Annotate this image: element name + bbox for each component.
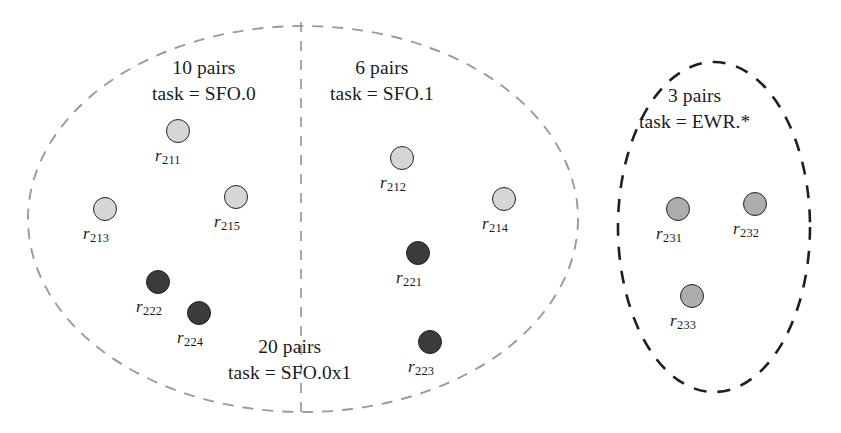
node-r224[interactable] bbox=[187, 301, 211, 325]
node-label-r221: r221 bbox=[396, 268, 422, 288]
group-caption-line: 20 pairs bbox=[228, 334, 351, 360]
node-r231[interactable] bbox=[666, 197, 690, 221]
node-label-prefix: r bbox=[214, 212, 221, 231]
node-label-prefix: r bbox=[670, 311, 677, 330]
node-label-prefix: r bbox=[83, 224, 90, 243]
group-caption-line: 6 pairs bbox=[330, 55, 434, 81]
node-label-r212: r212 bbox=[380, 173, 406, 193]
node-label-subscript: 221 bbox=[403, 275, 422, 289]
node-r232[interactable] bbox=[743, 192, 767, 216]
group-caption-line: 10 pairs bbox=[152, 55, 256, 81]
node-label-r222: r222 bbox=[136, 297, 162, 317]
node-label-subscript: 213 bbox=[90, 231, 109, 245]
node-label-subscript: 215 bbox=[221, 219, 240, 233]
group-caption-sfo-0: 10 pairstask = SFO.0 bbox=[152, 55, 256, 106]
node-label-prefix: r bbox=[396, 268, 403, 287]
node-label-r211: r211 bbox=[155, 146, 180, 166]
node-r214[interactable] bbox=[492, 187, 516, 211]
node-r212[interactable] bbox=[390, 146, 414, 170]
node-label-subscript: 232 bbox=[740, 226, 759, 240]
node-label-subscript: 233 bbox=[677, 318, 696, 332]
node-label-prefix: r bbox=[155, 146, 162, 165]
node-label-subscript: 212 bbox=[387, 180, 406, 194]
node-r223[interactable] bbox=[418, 330, 442, 354]
node-r222[interactable] bbox=[146, 270, 170, 294]
group-caption-sfo-0x1: 20 pairstask = SFO.0x1 bbox=[228, 334, 351, 385]
group-caption-line: 3 pairs bbox=[639, 83, 750, 109]
node-label-r232: r232 bbox=[733, 219, 759, 239]
node-r215[interactable] bbox=[224, 185, 248, 209]
node-label-r224: r224 bbox=[177, 328, 203, 348]
node-label-prefix: r bbox=[177, 328, 184, 347]
group-caption-line: task = SFO.0x1 bbox=[228, 360, 351, 386]
node-label-r214: r214 bbox=[482, 214, 508, 234]
node-label-prefix: r bbox=[733, 219, 740, 238]
node-label-subscript: 231 bbox=[663, 231, 682, 245]
node-label-subscript: 211 bbox=[162, 153, 181, 167]
node-label-r233: r233 bbox=[670, 311, 696, 331]
node-label-subscript: 222 bbox=[143, 304, 162, 318]
group-caption-sfo-1: 6 pairstask = SFO.1 bbox=[330, 55, 434, 106]
node-label-subscript: 223 bbox=[415, 364, 434, 378]
node-r233[interactable] bbox=[680, 284, 704, 308]
group-caption-line: task = SFO.0 bbox=[152, 81, 256, 107]
node-label-subscript: 224 bbox=[184, 335, 203, 349]
node-label-prefix: r bbox=[656, 224, 663, 243]
group-caption-line: task = EWR.* bbox=[639, 109, 750, 135]
figure-canvas: 10 pairstask = SFO.06 pairstask = SFO.12… bbox=[0, 0, 841, 433]
node-label-r231: r231 bbox=[656, 224, 682, 244]
group-caption-ewr-star: 3 pairstask = EWR.* bbox=[639, 83, 750, 134]
node-r213[interactable] bbox=[93, 197, 117, 221]
node-r221[interactable] bbox=[406, 241, 430, 265]
node-label-r215: r215 bbox=[214, 212, 240, 232]
node-label-subscript: 214 bbox=[489, 221, 508, 235]
node-label-prefix: r bbox=[380, 173, 387, 192]
group-caption-line: task = SFO.1 bbox=[330, 81, 434, 107]
node-label-r223: r223 bbox=[408, 357, 434, 377]
node-label-r213: r213 bbox=[83, 224, 109, 244]
node-r211[interactable] bbox=[166, 119, 190, 143]
node-label-prefix: r bbox=[482, 214, 489, 233]
node-label-prefix: r bbox=[136, 297, 143, 316]
node-label-prefix: r bbox=[408, 357, 415, 376]
